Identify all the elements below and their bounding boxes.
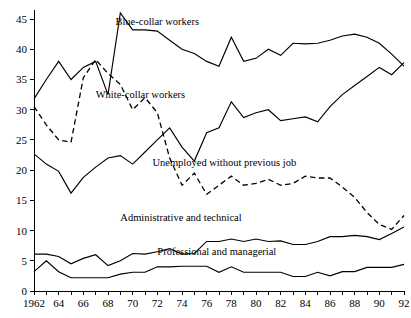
x-tick-label: 78 — [226, 297, 238, 309]
x-tick-label: 88 — [349, 297, 361, 309]
y-tick-label: 5 — [22, 255, 28, 267]
series-line — [34, 13, 404, 99]
series-line — [34, 261, 404, 278]
series-label: Administrative and technical — [120, 212, 241, 223]
x-tick-label: 74 — [177, 297, 189, 309]
y-tick-label: 20 — [16, 164, 28, 176]
x-tick-label: 70 — [127, 297, 139, 309]
x-tick-label: 82 — [275, 297, 286, 309]
x-tick-label: 1962 — [23, 297, 45, 309]
series-label: Unemployed without previous job — [152, 157, 296, 168]
x-tick-label: 64 — [53, 297, 65, 309]
y-tick-label: 40 — [16, 43, 28, 55]
series-label: White-collar workers — [96, 89, 186, 100]
x-tick-label: 76 — [201, 297, 213, 309]
x-tick-label: 86 — [325, 297, 337, 309]
y-tick-label: 45 — [16, 13, 28, 25]
x-tick-label: 68 — [103, 297, 115, 309]
line-chart-plot: 051015202530354045 196264666870727476788… — [0, 0, 411, 318]
x-axis-tick-labels: 1962646668707274767880828486889092 — [23, 297, 410, 309]
y-tick-label: 15 — [16, 194, 28, 206]
x-tick-label: 80 — [251, 297, 263, 309]
series-label: Blue-collar workers — [115, 16, 199, 27]
x-tick-label: 66 — [78, 297, 90, 309]
chart-series-group — [34, 13, 404, 278]
series-line — [34, 63, 404, 194]
series-label: Professional and managerial — [157, 246, 276, 257]
y-tick-label: 10 — [16, 225, 28, 237]
x-tick-label: 90 — [374, 297, 386, 309]
y-tick-label: 30 — [16, 104, 28, 116]
series-line — [34, 60, 404, 230]
x-tick-label: 72 — [152, 297, 163, 309]
x-tick-label: 92 — [399, 297, 410, 309]
y-tick-label: 35 — [16, 73, 28, 85]
chart-container: 051015202530354045 196264666870727476788… — [0, 0, 411, 318]
x-tick-label: 84 — [300, 297, 312, 309]
y-tick-label: 0 — [22, 285, 28, 297]
y-tick-label: 25 — [16, 134, 28, 146]
series-annotations: Blue-collar workersWhite-collar workersU… — [96, 16, 297, 258]
y-axis-tick-labels: 051015202530354045 — [16, 13, 28, 297]
